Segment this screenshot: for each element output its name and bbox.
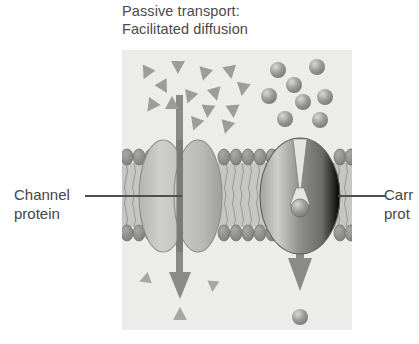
channel-protein-label: Channel protein (14, 185, 70, 223)
carrier-protein-leader-line (338, 195, 386, 197)
channel-protein-leader-line (85, 195, 182, 197)
bound-solute-sphere (291, 199, 309, 217)
sphere-particle-group-below (292, 309, 308, 325)
channel-protein-label-line-2: protein (14, 204, 70, 223)
figure-canvas: Passive transport: Facilitated diffusion (0, 0, 419, 344)
carrier-protein (260, 138, 340, 254)
carrier-protein-label-line-1: Carr (384, 185, 413, 204)
channel-protein-label-line-1: Channel (14, 185, 70, 204)
carrier-protein-label-line-2: prot (384, 204, 413, 223)
carrier-protein-label: Carr prot (384, 185, 413, 223)
membrane-transport-illustration (0, 0, 419, 344)
